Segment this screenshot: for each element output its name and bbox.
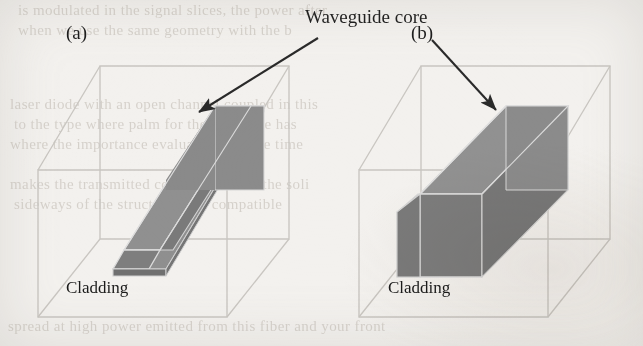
waveguide-core-b [397, 106, 568, 277]
panel-b [359, 40, 610, 317]
cladding-label-b: Cladding [388, 278, 450, 298]
figure-waveguide-cross-sections: is modulated in the signal slices, the p… [0, 0, 643, 346]
annotation-arrow-a [199, 38, 318, 112]
waveguide-core-annotation: Waveguide core [305, 6, 427, 28]
panel-label-a: (a) [66, 22, 87, 44]
annotation-arrow-b [432, 40, 496, 110]
cladding-label-a: Cladding [66, 278, 128, 298]
waveguide-core-a [113, 106, 264, 276]
panel-a [38, 38, 318, 317]
